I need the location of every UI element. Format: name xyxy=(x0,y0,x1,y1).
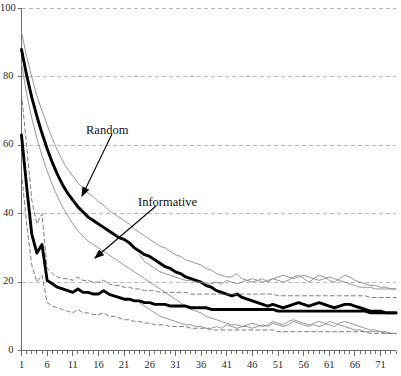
annotation-arrow xyxy=(82,134,112,196)
chart-container: 0204060801001611162126313641465156616671… xyxy=(0,0,401,376)
gridlines xyxy=(22,9,397,283)
y-axis-tick-label: 80 xyxy=(0,71,14,82)
y-axis-tick-label: 0 xyxy=(0,345,14,356)
data-series xyxy=(22,32,397,333)
annotation-arrow xyxy=(95,206,156,258)
line-chart-plot xyxy=(0,0,401,376)
series-line xyxy=(22,50,397,313)
x-axis-tick-label: 71 xyxy=(366,360,396,371)
y-axis-tick-label: 20 xyxy=(0,276,14,287)
axes xyxy=(22,9,397,351)
annotation-label-informative: Informative xyxy=(138,196,197,209)
y-axis-ticks xyxy=(18,9,22,351)
y-axis-tick-label: 100 xyxy=(0,3,14,14)
series-line xyxy=(22,94,397,297)
y-axis-tick-label: 40 xyxy=(0,208,14,219)
annotation-label-random: Random xyxy=(86,124,128,137)
series-line xyxy=(22,63,397,333)
series-line xyxy=(22,32,397,289)
y-axis-tick-label: 60 xyxy=(0,139,14,150)
x-axis-ticks xyxy=(22,351,397,356)
